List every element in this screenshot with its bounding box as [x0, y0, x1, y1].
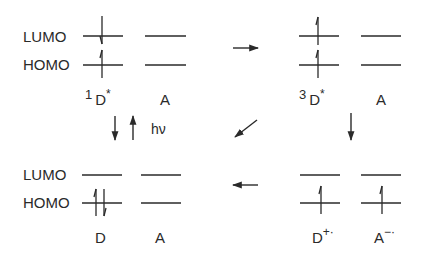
spin-down-electron-icon — [100, 16, 102, 44]
species-label-acceptor: A — [155, 230, 165, 245]
species-label-ground-donor: D — [95, 230, 106, 245]
species-label-triplet-donor: 3D* — [299, 92, 325, 107]
pet-energy-diagram: LUMO HOMO LUMO HOMO 1D* A 3D* A hν D A D… — [0, 0, 427, 254]
panel-ground-state — [82, 175, 181, 216]
species-label-acceptor: A — [160, 92, 170, 107]
photon-energy-label: hν — [151, 122, 166, 136]
arrow-diagonal-decay-icon — [235, 120, 257, 137]
species-label-acceptor: A — [376, 92, 386, 107]
panel-singlet-excited — [83, 16, 186, 78]
spin-up-electron-icon — [380, 186, 382, 214]
species-label-singlet-donor: 1D* — [85, 92, 111, 107]
panel-triplet-excited — [299, 17, 401, 78]
spin-up-electron-icon — [100, 50, 102, 78]
lumo-label-top: LUMO — [23, 29, 66, 44]
spin-up-electron-icon — [316, 17, 318, 45]
panel-radical-ion-pair — [300, 175, 401, 214]
spin-up-electron-icon — [319, 186, 321, 214]
homo-label-top: HOMO — [23, 57, 70, 72]
homo-label-bottom: HOMO — [23, 195, 70, 210]
lumo-label-bottom: LUMO — [23, 167, 66, 182]
spin-up-electron-icon — [316, 50, 318, 78]
species-label-donor-radical-cation: D+· — [312, 230, 334, 245]
species-label-acceptor-radical-anion: A−· — [374, 230, 395, 245]
